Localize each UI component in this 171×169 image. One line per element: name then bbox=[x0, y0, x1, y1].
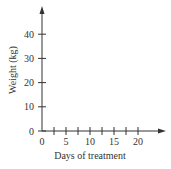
x-axis bbox=[42, 129, 166, 134]
y-tick-label: 20 bbox=[24, 77, 34, 88]
y-tick-label: 40 bbox=[24, 29, 34, 40]
x-axis-arrow-icon bbox=[158, 129, 166, 134]
x-tick-label: 20 bbox=[133, 136, 143, 147]
y-axis bbox=[40, 6, 45, 131]
y-tick-label: 0 bbox=[29, 126, 34, 137]
y-ticks: 010203040 bbox=[24, 29, 46, 137]
y-axis-label: Weight (kg) bbox=[7, 46, 19, 94]
x-tick-label: 15 bbox=[109, 136, 119, 147]
x-ticks: 05101520 bbox=[40, 127, 144, 147]
y-axis-arrow-icon bbox=[40, 6, 45, 14]
y-tick-label: 30 bbox=[24, 53, 34, 64]
x-tick-label: 10 bbox=[85, 136, 95, 147]
x-axis-label: Days of treatment bbox=[54, 150, 126, 161]
y-tick-label: 10 bbox=[24, 101, 34, 112]
x-tick-label: 0 bbox=[40, 136, 45, 147]
chart: 010203040 05101520 Days of treatment Wei… bbox=[0, 0, 171, 169]
x-tick-label: 5 bbox=[64, 136, 69, 147]
